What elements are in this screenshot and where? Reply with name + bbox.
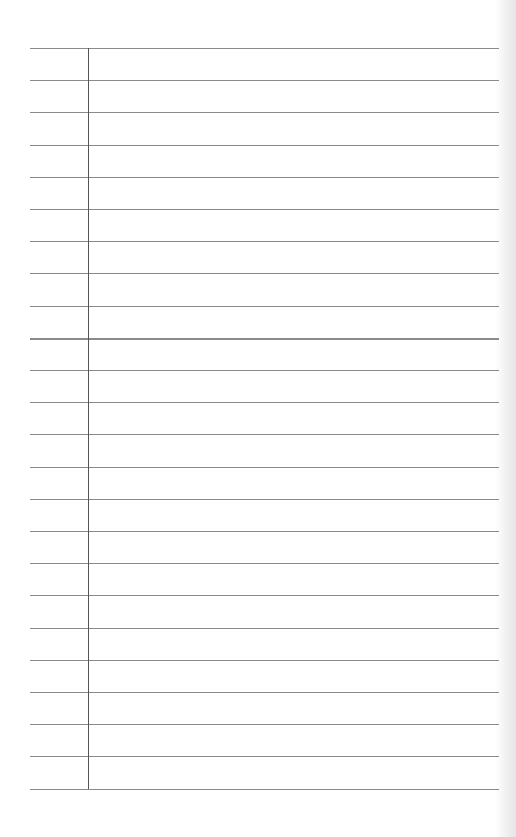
ruled-line (30, 789, 499, 790)
margin-line (88, 48, 89, 789)
ruled-line (30, 660, 499, 661)
ruled-line (30, 80, 499, 81)
ruled-line (30, 273, 499, 274)
ruled-line (30, 467, 499, 468)
ruled-line (30, 402, 499, 403)
ruled-line (30, 209, 499, 210)
ruled-line (30, 563, 499, 564)
ruled-line (30, 531, 499, 532)
ruled-line (30, 628, 499, 629)
ruled-line (30, 306, 499, 307)
ruled-line (30, 756, 499, 757)
ruled-line (30, 434, 499, 435)
ruled-line (30, 499, 499, 500)
ruled-line (30, 112, 499, 113)
ruled-line (30, 370, 499, 371)
ruled-line (30, 177, 499, 178)
ruled-line (30, 724, 499, 725)
notebook-page (0, 0, 516, 837)
ruled-line (30, 692, 499, 693)
ruled-line (30, 595, 499, 596)
ruled-line (30, 241, 499, 242)
ruled-line (30, 145, 499, 146)
ruled-line (30, 338, 499, 340)
ruled-line (30, 48, 499, 49)
